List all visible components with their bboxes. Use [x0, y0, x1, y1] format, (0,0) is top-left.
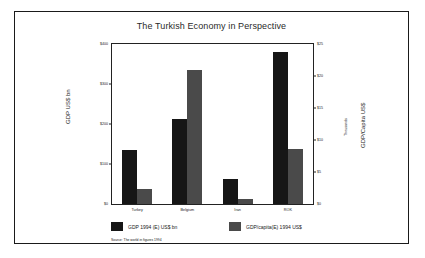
y-axis-tick-label-left: $400 — [100, 42, 112, 46]
bar-gdp-iran — [223, 179, 238, 204]
y-axis-tick-mark-right — [313, 76, 316, 77]
x-axis-tick-label: Belgium — [181, 208, 195, 212]
x-axis-tick-label: Turkey — [131, 208, 142, 212]
bar-gdp-rok — [273, 52, 288, 204]
legend-entry: GDP 1994 (E) US$ bn — [111, 222, 229, 231]
y-axis-label-right: GDP/Capita US$ — [360, 103, 366, 148]
y-axis-tick-label-right: $25 — [313, 42, 323, 46]
legend-label: GDP/capita(E) 1994 US$ — [246, 224, 302, 230]
y-axis-tick-label-left: $0 — [104, 202, 112, 206]
legend-entry: GDP/capita(E) 1994 US$ — [229, 222, 302, 231]
y-axis-tick-mark-right — [313, 140, 316, 141]
bar-gdp-per-capita-belgium — [187, 70, 202, 204]
legend-label: GDP 1994 (E) US$ bn — [128, 224, 177, 230]
bars-layer — [112, 44, 313, 204]
y-axis-tick-mark-right — [313, 172, 316, 173]
legend-swatch-icon — [229, 222, 241, 231]
plot-area: TurkeyBelgiumIranROK$0$100$200$300$400$0… — [111, 43, 314, 205]
bar-gdp-per-capita-iran — [238, 199, 253, 204]
x-axis-tick-label: ROK — [284, 208, 292, 212]
bar-gdp-per-capita-rok — [288, 149, 303, 204]
y-axis-tick-mark-left — [109, 124, 112, 125]
y-axis-tick-label-right: $0 — [313, 202, 321, 206]
chart-legend: GDP 1994 (E) US$ bn GDP/capita(E) 1994 U… — [111, 222, 336, 231]
chart-title: The Turkish Economy in Perspective — [15, 21, 408, 31]
bar-gdp-turkey — [122, 150, 137, 204]
y-axis-unit-right: Thousands — [344, 118, 348, 136]
legend-swatch-icon — [111, 222, 123, 231]
y-axis-tick-mark-left — [109, 164, 112, 165]
x-axis-tick-label: Iran — [234, 208, 241, 212]
y-axis-tick-mark-left — [109, 84, 112, 85]
source-note: Source: The world in figures 1994 — [111, 238, 162, 242]
y-axis-tick-mark-right — [313, 108, 316, 109]
bar-gdp-per-capita-turkey — [137, 189, 152, 204]
y-axis-label-left: GDP US$ bn — [65, 89, 71, 124]
figure-frame: The Turkish Economy in Perspective Turke… — [14, 11, 409, 244]
bar-gdp-belgium — [172, 119, 187, 204]
